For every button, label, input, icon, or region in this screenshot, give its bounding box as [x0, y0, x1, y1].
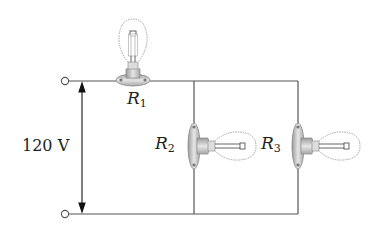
r3-subscript: 3 [274, 142, 281, 155]
voltage-arrow [79, 83, 85, 212]
r3-symbol: R [261, 133, 274, 153]
r2-label: R2 [155, 133, 175, 155]
r1-symbol: R [127, 88, 140, 108]
r1-label: R1 [127, 88, 147, 110]
voltage-label: 120 V [22, 136, 69, 155]
r1-subscript: 1 [140, 97, 147, 110]
circuit-diagram [0, 0, 378, 235]
bulb-r1-icon [116, 19, 150, 86]
r2-symbol: R [155, 133, 168, 153]
terminal-bottom [61, 210, 68, 217]
r2-subscript: 2 [168, 142, 175, 155]
bulb-r3-icon [292, 123, 360, 169]
bulb-r2-icon [188, 123, 256, 169]
terminal-top [61, 77, 68, 84]
r3-label: R3 [261, 133, 281, 155]
